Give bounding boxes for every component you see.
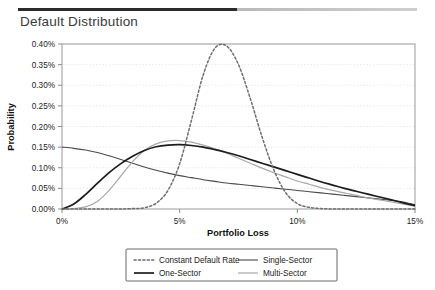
default-distribution-chart: 0.00%0.05%0.10%0.15%0.20%0.25%0.30%0.35%… xyxy=(0,30,435,290)
y-tick-label: 0.05% xyxy=(32,184,55,193)
page-title: Default Distribution xyxy=(20,14,138,29)
series-line-multi-sector xyxy=(62,140,415,209)
y-axis-title: Probability xyxy=(6,102,16,150)
x-tick-label: 10% xyxy=(289,217,305,226)
legend-label: One-Sector xyxy=(159,269,201,278)
x-tick-label: 5% xyxy=(174,217,186,226)
x-axis-title: Portfolio Loss xyxy=(207,228,269,238)
y-tick-label: 0.10% xyxy=(32,164,55,173)
series-line-one-sector xyxy=(62,145,415,209)
title-divider xyxy=(18,8,417,11)
x-axis-ticks: 0%5%10%15% xyxy=(56,209,423,226)
y-tick-label: 0.30% xyxy=(32,81,55,90)
legend-label: Constant Default Rate xyxy=(159,256,240,265)
y-tick-label: 0.25% xyxy=(32,102,55,111)
y-tick-label: 0.00% xyxy=(32,205,55,214)
chart-svg: 0.00%0.05%0.10%0.15%0.20%0.25%0.30%0.35%… xyxy=(0,30,435,290)
chart-legend: Constant Default RateSingle-SectorOne-Se… xyxy=(126,249,337,281)
legend-label: Single-Sector xyxy=(263,256,312,265)
legend-label: Multi-Sector xyxy=(263,269,307,278)
y-axis-ticks: 0.00%0.05%0.10%0.15%0.20%0.25%0.30%0.35%… xyxy=(32,40,62,214)
y-tick-label: 0.15% xyxy=(32,143,55,152)
y-tick-label: 0.35% xyxy=(32,61,55,70)
x-tick-label: 0% xyxy=(56,217,68,226)
x-tick-label: 15% xyxy=(407,217,423,226)
y-tick-label: 0.40% xyxy=(32,40,55,49)
y-tick-label: 0.20% xyxy=(32,123,55,132)
